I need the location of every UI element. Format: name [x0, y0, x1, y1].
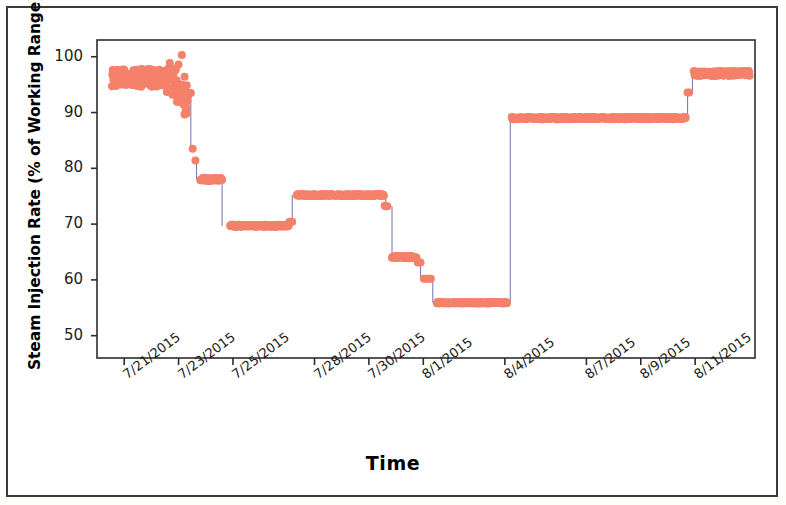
data-point-outlier — [381, 202, 389, 210]
plot-area-border — [97, 40, 755, 358]
data-point — [682, 114, 690, 122]
y-axis-tick-label: 80 — [43, 158, 83, 176]
y-axis-tick-label: 50 — [43, 326, 83, 344]
data-point — [503, 299, 511, 307]
data-point — [380, 192, 388, 200]
x-axis-title: Time — [0, 452, 786, 474]
data-point — [288, 218, 296, 226]
data-point — [191, 157, 199, 165]
data-point — [218, 176, 226, 184]
data-point-outlier — [175, 61, 183, 69]
data-point — [746, 72, 754, 80]
data-point — [685, 88, 693, 96]
y-axis-tick-label: 90 — [43, 103, 83, 121]
data-point — [427, 275, 435, 283]
y-axis-title: Steam Injection Rate (% of Working Range… — [26, 40, 44, 370]
data-point-outlier — [181, 73, 189, 81]
figure-page: 5060708090100 7/21/20157/23/20157/25/201… — [0, 0, 786, 505]
chart-figure: 5060708090100 7/21/20157/23/20157/25/201… — [0, 0, 786, 505]
data-point-outlier — [183, 81, 191, 89]
y-axis-tick-label: 100 — [43, 47, 83, 65]
chart-canvas — [0, 0, 786, 505]
data-point-outlier — [181, 100, 189, 108]
y-axis-tick-label: 70 — [43, 214, 83, 232]
data-point — [417, 259, 425, 267]
y-axis-tick-label: 60 — [43, 270, 83, 288]
y-axis-ticks — [91, 57, 97, 336]
data-point-outlier — [184, 92, 192, 100]
data-point — [189, 145, 197, 153]
data-point-outlier — [178, 51, 186, 59]
